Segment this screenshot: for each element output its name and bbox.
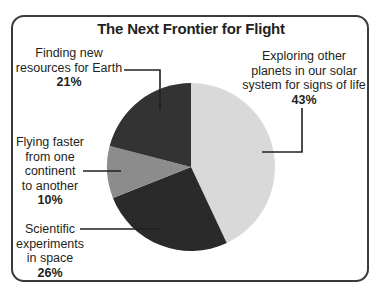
label-percent: 10% (12, 193, 88, 208)
label-line: continent (12, 164, 88, 179)
label-percent: 43% (242, 93, 366, 108)
label-line: from one (12, 150, 88, 165)
label-line: experiments (12, 237, 88, 252)
label-flying: Flying faster from one continent to anot… (12, 135, 88, 208)
label-finding: Finding new resources for Earth 21% (14, 46, 124, 90)
label-line: in space (12, 251, 88, 266)
label-percent: 21% (14, 75, 124, 90)
label-percent: 26% (12, 266, 88, 281)
label-line: Finding new (14, 46, 124, 61)
label-line: Scientific (12, 222, 88, 237)
label-line: system for signs of life (242, 78, 366, 93)
label-scientific: Scientific experiments in space 26% (12, 222, 88, 280)
label-line: Flying faster (12, 135, 88, 150)
label-exploring: Exploring other planets in our solar sys… (242, 49, 366, 107)
label-line: planets in our solar (242, 64, 366, 79)
label-line: to another (12, 179, 88, 194)
label-line: Exploring other (242, 49, 366, 64)
label-line: resources for Earth (14, 61, 124, 76)
